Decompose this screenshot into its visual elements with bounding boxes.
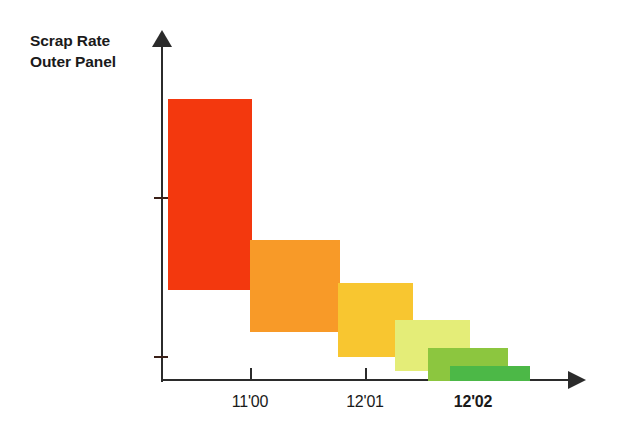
bar-6-dark-green xyxy=(450,366,530,381)
y-axis-arrow-icon xyxy=(152,30,172,47)
x-axis-tick-1 xyxy=(365,368,367,380)
bar-2-orange xyxy=(250,240,340,332)
x-axis-label-1: 12'01 xyxy=(346,393,384,411)
x-axis-label-2: 12'02 xyxy=(454,393,492,411)
x-axis-tick-0 xyxy=(250,368,252,380)
chart-canvas: Scrap Rate Outer Panel 11'0012'0112'02 xyxy=(0,0,627,445)
x-axis-label-0: 11'00 xyxy=(232,393,268,411)
y-axis-tick-1 xyxy=(154,356,168,358)
y-axis-line xyxy=(161,44,163,382)
x-axis-arrow-icon xyxy=(568,371,586,389)
y-axis-tick-0 xyxy=(154,197,168,199)
chart-title: Scrap Rate Outer Panel xyxy=(30,30,116,73)
bar-1-red xyxy=(168,99,252,290)
chart-title-line-2: Outer Panel xyxy=(30,51,116,72)
chart-title-line-1: Scrap Rate xyxy=(30,32,110,49)
